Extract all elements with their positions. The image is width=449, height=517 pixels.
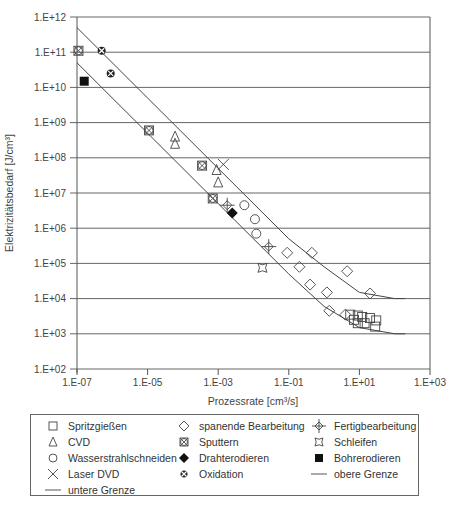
circle-open-icon: [45, 451, 61, 465]
y-tick-label: 1.E+06: [34, 223, 66, 234]
upper-bound-curve: [77, 28, 405, 299]
legend-item: CVD: [45, 434, 90, 450]
legend-item: spanende Bearbeitung: [176, 418, 305, 434]
x-tick-label: 1.E+01: [343, 377, 375, 388]
legend-item: Schleifen: [311, 434, 377, 450]
legend-label: Schleifen: [334, 436, 377, 448]
triangle-open-icon: [45, 435, 61, 449]
y-tick-label: 1.E+07: [34, 188, 66, 199]
boundary-curves: [77, 28, 405, 334]
y-tick-label: 1.E+12: [34, 12, 66, 23]
data-points: [74, 46, 381, 331]
x-tick-label: 1.E-05: [133, 377, 163, 388]
legend-label: Laser DVD: [68, 468, 119, 480]
legend-label: Drahterodieren: [199, 452, 269, 464]
legend-item: Wasserstrahlschneiden: [45, 450, 177, 466]
legend-label: spanende Bearbeitung: [199, 420, 305, 432]
circle-cross-filled-icon: [176, 467, 192, 481]
line-icon: [45, 483, 61, 497]
legend-label: Wasserstrahlschneiden: [68, 452, 177, 464]
diamond-filled-icon: [176, 451, 192, 465]
y-tick-label: 1.E+02: [34, 364, 66, 375]
legend-label: CVD: [68, 436, 90, 448]
y-tick-label: 1.E+09: [34, 117, 66, 128]
star-open-icon: [311, 435, 327, 449]
line-icon: [311, 467, 327, 481]
series-wasserstrahlschneiden: [240, 201, 261, 238]
x-axis-ticks: 1.E-071.E-051.E-031.E-011.E+011.E+03: [62, 369, 446, 388]
series-fertigbearbeitung: [220, 198, 277, 254]
lower-bound-curve: [77, 63, 405, 334]
y-tick-label: 1.E+04: [34, 293, 66, 304]
x-tick-label: 1.E-07: [62, 377, 92, 388]
y-axis-ticks: 1.E+121.E+111.E+101.E+091.E+081.E+071.E+…: [34, 12, 66, 375]
y-axis-label: Elektrizitätsbedarf [J/cm³]: [3, 134, 15, 252]
legend-label: obere Grenze: [334, 468, 398, 480]
series-cvd: [171, 131, 223, 187]
x-tick-label: 1.E-03: [203, 377, 233, 388]
y-tick-label: 1.E+03: [34, 328, 66, 339]
chart: 1.E+121.E+111.E+101.E+091.E+081.E+071.E+…: [0, 0, 449, 412]
diamond-open-icon: [176, 419, 192, 433]
legend-item: Drahterodieren: [176, 450, 269, 466]
legend-item: Fertigbearbeitung: [311, 418, 416, 434]
series-spritzgie-en: [346, 310, 381, 331]
x-icon: [45, 467, 61, 481]
legend-label: Oxidation: [199, 468, 243, 480]
square-filled-icon: [311, 451, 327, 465]
x-axis-label: Prozessrate [cm³/s]: [208, 395, 299, 407]
y-tick-label: 1.E+05: [34, 258, 66, 269]
legend-item: Sputtern: [176, 434, 239, 450]
square-cross-icon: [176, 435, 192, 449]
x-tick-label: 1.E+03: [414, 377, 446, 388]
legend: Spritzgießenspanende BearbeitungFertigbe…: [30, 414, 419, 496]
series-schleifen: [258, 263, 267, 272]
series-laser-dvd: [218, 159, 229, 170]
y-tick-label: 1.E+08: [34, 152, 66, 163]
square-open-icon: [45, 419, 61, 433]
legend-item: Oxidation: [176, 466, 243, 482]
legend-label: untere Grenze: [68, 484, 135, 496]
y-tick-label: 1.E+10: [34, 82, 66, 93]
legend-item: Laser DVD: [45, 466, 119, 482]
legend-item: untere Grenze: [45, 482, 135, 498]
legend-item: Bohrerodieren: [311, 450, 401, 466]
series-drahterodieren: [227, 208, 238, 219]
legend-label: Bohrerodieren: [334, 452, 401, 464]
x-tick-label: 1.E-01: [274, 377, 304, 388]
crosshair-diamond-icon: [311, 419, 327, 433]
legend-label: Sputtern: [199, 436, 239, 448]
legend-label: Spritzgießen: [68, 420, 127, 432]
legend-item: Spritzgießen: [45, 418, 127, 434]
legend-item: obere Grenze: [311, 466, 398, 482]
y-tick-label: 1.E+11: [35, 47, 67, 58]
series-sputtern: [74, 46, 217, 203]
legend-label: Fertigbearbeitung: [334, 420, 416, 432]
series-bohrerodieren: [80, 77, 89, 86]
